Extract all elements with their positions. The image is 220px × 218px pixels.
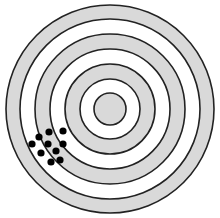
hit-dot bbox=[56, 156, 63, 163]
target-rings bbox=[6, 5, 214, 213]
hit-dot bbox=[59, 127, 66, 134]
hit-dot bbox=[37, 149, 44, 156]
hit-dot bbox=[59, 140, 66, 147]
bullseye-target bbox=[0, 0, 220, 218]
hit-dot bbox=[44, 140, 51, 147]
hit-dot bbox=[52, 147, 59, 154]
hit-dot bbox=[35, 133, 42, 140]
hit-dot bbox=[28, 140, 35, 147]
hit-dot bbox=[45, 128, 52, 135]
hit-dot bbox=[47, 158, 54, 165]
bullseye-center bbox=[94, 93, 126, 125]
